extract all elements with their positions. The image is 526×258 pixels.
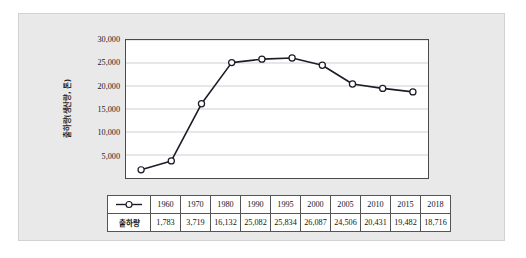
table-header-year: 2010 xyxy=(361,196,391,214)
table-header-year: 2000 xyxy=(301,196,331,214)
line-with-circle-marker-icon xyxy=(114,199,144,210)
data-point xyxy=(410,89,416,95)
data-point xyxy=(289,55,295,61)
table-header-year: 1995 xyxy=(271,196,301,214)
data-point xyxy=(198,101,204,107)
data-point xyxy=(349,81,355,87)
data-point xyxy=(259,56,265,62)
y-axis-title-text: 출하량(생산량, 톤) xyxy=(62,78,73,137)
table-header-year: 2005 xyxy=(331,196,361,214)
table-cell-value: 18,716 xyxy=(421,214,451,232)
table-header-year: 1990 xyxy=(241,196,271,214)
data-table: 1960197019801990199520002005201020152018… xyxy=(107,195,451,232)
y-axis-title: 출하량(생산량, 톤) xyxy=(59,34,75,182)
y-tick-label: 10,000 xyxy=(97,128,120,137)
plot-area xyxy=(125,39,429,179)
table-header-year: 1960 xyxy=(151,196,181,214)
data-point xyxy=(319,62,325,68)
chart-area: 출하량(생산량, 톤) 30,00025,00020,00015,00010,0… xyxy=(59,34,454,184)
table-header-year: 2015 xyxy=(391,196,421,214)
data-line xyxy=(141,58,413,170)
data-point xyxy=(380,85,386,91)
table-cell-value: 1,783 xyxy=(151,214,181,232)
figure-panel: 출하량(생산량, 톤) 30,00025,00020,00015,00010,0… xyxy=(18,13,505,241)
y-tick-label: 30,000 xyxy=(97,35,120,44)
line-chart-svg xyxy=(126,40,428,178)
table-cell-value: 20,431 xyxy=(361,214,391,232)
table-cell-value: 16,132 xyxy=(211,214,241,232)
table-cell-value: 25,082 xyxy=(241,214,271,232)
table-row-years: 1960197019801990199520002005201020152018 xyxy=(108,196,451,214)
y-tick-label: 25,000 xyxy=(97,58,120,67)
table-header-year: 2018 xyxy=(421,196,451,214)
y-axis-tick-labels: 30,00025,00020,00015,00010,0005,000 xyxy=(77,34,123,179)
table-row-values: 출하량 1,7833,71916,13225,08225,83426,08724… xyxy=(108,214,451,232)
figure-root: 출하량(생산량, 톤) 30,00025,00020,00015,00010,0… xyxy=(0,0,526,258)
legend-marker-cell xyxy=(108,196,151,214)
table-header-year: 1970 xyxy=(181,196,211,214)
data-point xyxy=(138,167,144,173)
table-cell-value: 3,719 xyxy=(181,214,211,232)
row-label: 출하량 xyxy=(108,214,151,232)
y-tick-label: 5,000 xyxy=(102,151,120,160)
table-cell-value: 24,506 xyxy=(331,214,361,232)
y-tick-label: 15,000 xyxy=(97,105,120,114)
table-cell-value: 26,087 xyxy=(301,214,331,232)
table-cell-value: 19,482 xyxy=(391,214,421,232)
data-point xyxy=(168,158,174,164)
table-cell-value: 25,834 xyxy=(271,214,301,232)
gridlines xyxy=(126,40,428,155)
table-header-year: 1980 xyxy=(211,196,241,214)
y-tick-label: 20,000 xyxy=(97,81,120,90)
data-point xyxy=(229,60,235,66)
